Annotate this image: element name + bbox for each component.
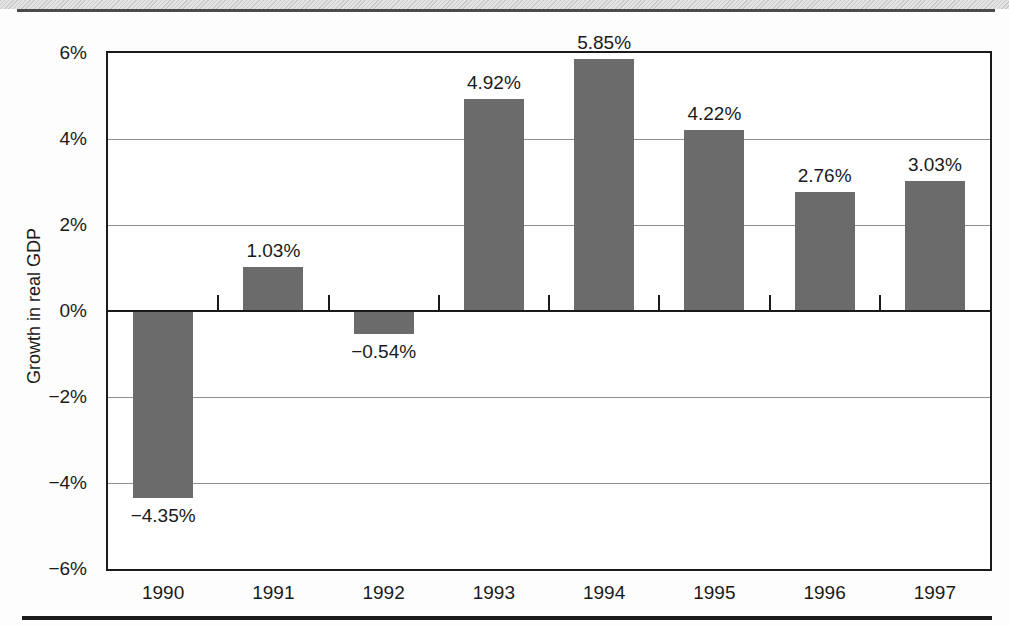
category-boundary-tick-3 (438, 295, 440, 311)
bar-1992 (354, 311, 414, 334)
bar-1997 (905, 181, 965, 311)
category-boundary-tick-1 (217, 295, 219, 311)
gridline-2 (108, 225, 990, 226)
x-tick-label-1996: 1996 (765, 582, 885, 604)
bar-value-label-1990: −4.35% (103, 505, 223, 527)
bar-value-label-1992: −0.54% (324, 341, 444, 363)
x-tick-label-1995: 1995 (654, 582, 774, 604)
bar-value-label-1996: 2.76% (765, 165, 885, 187)
x-tick-label-1992: 1992 (324, 582, 444, 604)
zero-axis-line (108, 310, 990, 312)
y-axis-labels: 6%4%2%0%−2%−4%−6% (0, 51, 96, 571)
bar-1990 (133, 311, 193, 498)
bar-1995 (684, 130, 744, 311)
gridline-4 (108, 139, 990, 140)
y-tick-label--2: −2% (0, 386, 96, 408)
x-tick-label-1994: 1994 (544, 582, 664, 604)
top-horizontal-rule (17, 9, 995, 12)
bottom-horizontal-rule (22, 616, 992, 620)
x-tick-label-1991: 1991 (213, 582, 333, 604)
gridline--2 (108, 397, 990, 398)
y-tick-label-0: 0% (0, 300, 96, 322)
category-boundary-tick-5 (658, 295, 660, 311)
y-tick-label-4: 4% (0, 128, 96, 150)
category-boundary-tick-7 (879, 295, 881, 311)
page: Growth in real GDP 6%4%2%0%−2%−4%−6% −4.… (0, 0, 1009, 626)
y-tick-label-2: 2% (0, 214, 96, 236)
y-tick-label--6: −6% (0, 558, 96, 580)
bar-value-label-1994: 5.85% (544, 32, 664, 54)
bar-value-label-1991: 1.03% (213, 240, 333, 262)
x-tick-label-1997: 1997 (875, 582, 995, 604)
y-tick-label--4: −4% (0, 472, 96, 494)
bar-1993 (464, 99, 524, 311)
x-tick-label-1993: 1993 (434, 582, 554, 604)
x-tick-label-1990: 1990 (103, 582, 223, 604)
bar-1991 (243, 267, 303, 311)
category-boundary-tick-6 (769, 295, 771, 311)
category-boundary-tick-2 (328, 295, 330, 311)
bar-value-label-1997: 3.03% (875, 154, 995, 176)
x-axis-labels: 19901991199219931994199519961997 (106, 580, 992, 606)
plot-area: −4.35%1.03%−0.54%4.92%5.85%4.22%2.76%3.0… (106, 51, 992, 571)
bar-1996 (795, 192, 855, 311)
bar-value-label-1993: 4.92% (434, 72, 554, 94)
category-boundary-tick-4 (548, 295, 550, 311)
gridline--4 (108, 483, 990, 484)
bar-value-label-1995: 4.22% (654, 103, 774, 125)
page-top-texture-band (0, 0, 1009, 9)
bar-1994 (574, 59, 634, 311)
y-tick-label-6: 6% (0, 42, 96, 64)
